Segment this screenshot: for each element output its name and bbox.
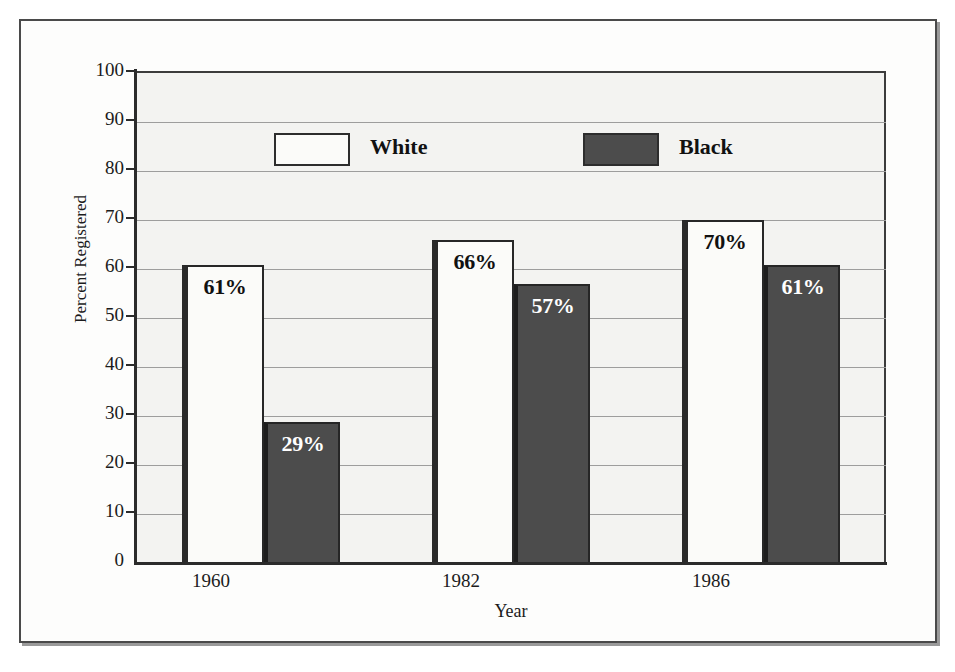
y-tick-mark-10 xyxy=(126,511,135,513)
gridline-70 xyxy=(136,220,886,221)
y-tick-mark-50 xyxy=(126,315,135,317)
y-tick-mark-20 xyxy=(126,462,135,464)
plot-area: 61% 29% 66% 57% 70% 61% xyxy=(136,71,886,563)
y-tick-label-0: 0 xyxy=(66,550,124,569)
gridline-80 xyxy=(136,171,886,172)
y-tick-mark-90 xyxy=(126,119,135,121)
gridline-90 xyxy=(136,122,886,123)
y-tick-mark-80 xyxy=(126,168,135,170)
y-axis-spine xyxy=(134,69,137,565)
bar-black-1982[interactable]: 57% xyxy=(514,284,590,565)
y-tick-mark-70 xyxy=(126,217,135,219)
y-tick-label-100: 100 xyxy=(66,60,124,79)
chart-page: 61% 29% 66% 57% 70% 61% xyxy=(0,0,955,672)
x-axis-title: Year xyxy=(136,601,886,622)
y-axis-title: Percent Registered xyxy=(71,159,91,359)
y-tick-mark-100 xyxy=(126,70,135,72)
figure-frame: 61% 29% 66% 57% 70% 61% xyxy=(19,19,937,643)
x-axis-spine xyxy=(134,562,887,565)
y-tick-label-30: 30 xyxy=(66,403,124,422)
y-tick-label-20: 20 xyxy=(66,452,124,471)
bar-white-1960[interactable]: 61% xyxy=(182,265,264,565)
bar-value-black-1986: 61% xyxy=(768,274,838,300)
bar-value-white-1986: 70% xyxy=(688,229,762,255)
bar-value-black-1960: 29% xyxy=(268,431,338,457)
y-tick-mark-60 xyxy=(126,266,135,268)
y-tick-label-90: 90 xyxy=(66,109,124,128)
bar-value-white-1982: 66% xyxy=(438,249,512,275)
bar-value-black-1982: 57% xyxy=(518,293,588,319)
bar-chart: 61% 29% 66% 57% 70% 61% xyxy=(21,21,939,645)
x-tick-label-1986: 1986 xyxy=(641,570,781,592)
x-tick-label-1982: 1982 xyxy=(391,570,531,592)
y-tick-label-10: 10 xyxy=(66,501,124,520)
bar-black-1986[interactable]: 61% xyxy=(764,265,840,565)
bar-black-1960[interactable]: 29% xyxy=(264,422,340,565)
x-tick-label-1960: 1960 xyxy=(141,570,281,592)
bar-white-1982[interactable]: 66% xyxy=(432,240,514,565)
y-tick-mark-30 xyxy=(126,413,135,415)
y-axis-tick-labels: 100 90 80 70 60 50 40 30 20 10 0 xyxy=(58,21,124,581)
y-tick-mark-40 xyxy=(126,364,135,366)
bar-value-white-1960: 61% xyxy=(188,274,262,300)
bar-white-1986[interactable]: 70% xyxy=(682,220,764,565)
